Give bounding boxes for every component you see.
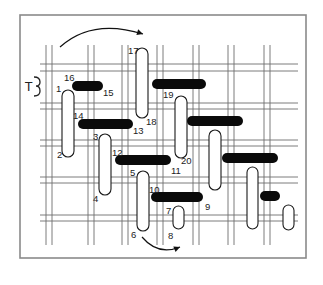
stitch-label-14: 14: [73, 110, 84, 121]
stitch-label-6: 6: [131, 229, 136, 240]
stitch-label-16: 16: [64, 72, 75, 83]
bar-16-15: [72, 81, 103, 91]
diagram-canvas: 1234567891011121314151617181920 T: [0, 0, 323, 285]
stitch-right-c: [283, 205, 294, 230]
stitch-diagram: 1234567891011121314151617181920 T: [0, 0, 323, 285]
stitch-17-18: [136, 48, 148, 118]
stitch-label-11: 11: [171, 165, 181, 176]
stitch-label-15: 15: [103, 87, 114, 98]
stitch-label-3: 3: [93, 131, 98, 142]
stitch-label-4: 4: [93, 193, 98, 204]
stitch-label-13: 13: [133, 125, 144, 136]
bar-14-13: [78, 119, 133, 129]
stitch-7-8: [173, 206, 184, 229]
bar-12-11: [115, 155, 171, 165]
stitch-label-18: 18: [146, 116, 157, 127]
bar-right-2: [222, 153, 278, 163]
stitch-label-10: 10: [149, 184, 160, 195]
stitch-label-5: 5: [130, 167, 135, 178]
stitch-label-9: 9: [205, 201, 210, 212]
stitch-label-19: 19: [163, 89, 174, 100]
bar-right-3: [260, 191, 280, 201]
stitch-label-1: 1: [56, 83, 61, 94]
stitch-label-12: 12: [112, 147, 123, 158]
bar-top-19: [152, 79, 206, 89]
stitch-label-17: 17: [128, 45, 139, 56]
stitch-1-2: [62, 90, 74, 157]
stitch-label-8: 8: [168, 230, 173, 241]
bar-right-1: [187, 116, 243, 126]
stitch-right-a: [209, 130, 221, 190]
stitch-3-4: [99, 134, 111, 195]
symbol-letter: T: [24, 80, 33, 94]
stitch-label-2: 2: [57, 149, 62, 160]
stitch-5-6: [137, 171, 149, 231]
stitch-label-7: 7: [166, 205, 171, 216]
stitch-label-20: 20: [181, 155, 192, 166]
stitch-19-20: [175, 96, 187, 158]
stitch-right-b: [247, 167, 258, 229]
